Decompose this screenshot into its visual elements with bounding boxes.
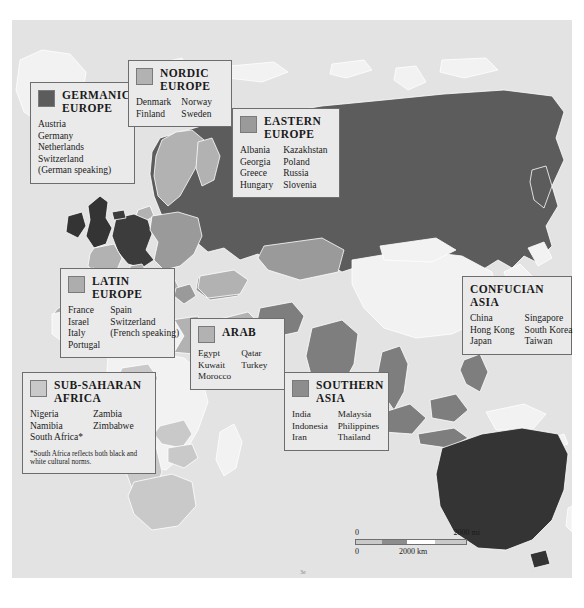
country-item: Spain	[110, 305, 179, 317]
country-item: France	[68, 305, 100, 317]
country-item: Morocco	[198, 371, 231, 383]
legend-country-columns: Nigeria Namibia South Africa* Zambia Zim…	[30, 409, 148, 444]
arctic-islands-c	[440, 58, 498, 78]
legend-column: Kazakhstan Poland Russia Slovenia	[283, 145, 327, 191]
country-item: Iran	[292, 432, 328, 444]
country-item: Albania	[240, 145, 273, 157]
country-item: Germany	[38, 131, 111, 143]
country-item: Namibia	[30, 421, 83, 433]
country-item: South Africa*	[30, 432, 83, 444]
country-item: Qatar	[241, 348, 267, 360]
country-item: Norway	[181, 97, 212, 109]
legend-country-columns: France Israel Italy Portugal Spain Switz…	[68, 305, 167, 351]
legend-header: GERMANIC EUROPE	[38, 88, 127, 114]
legend-box-eastern-europe[interactable]: EASTERN EUROPE Albania Georgia Greece Hu…	[232, 108, 340, 198]
legend-column: India Indonesia Iran	[292, 409, 328, 444]
legend-country-columns: Austria Germany Netherlands Switzerland …	[38, 119, 127, 177]
country-item: Sweden	[181, 109, 212, 121]
philippines	[460, 354, 488, 392]
country-item: Zimbabwe	[93, 421, 134, 433]
country-item: Japan	[470, 336, 515, 348]
country-item: Denmark	[136, 97, 171, 109]
legend-title: SOUTHERN ASIA	[316, 378, 384, 404]
color-swatch-icon	[198, 326, 215, 343]
country-item: Turkey	[241, 360, 267, 372]
legend-title: LATIN EUROPE	[92, 274, 142, 300]
country-item: Netherlands	[38, 142, 111, 154]
country-item: Greece	[240, 168, 273, 180]
indonesia-borneo	[430, 394, 468, 422]
legend-column: France Israel Italy Portugal	[68, 305, 100, 351]
legend-column: Egypt Kuwait Morocco	[198, 348, 231, 383]
country-item: China	[470, 313, 515, 325]
legend-header: SOUTHERN ASIA	[292, 378, 381, 404]
country-item: Philippines	[338, 421, 379, 433]
arctic-islands-a	[228, 62, 288, 82]
ireland	[66, 212, 86, 238]
legend-box-arab[interactable]: ARAB Egypt Kuwait Morocco Qatar Turkey	[190, 318, 285, 390]
map-attribution-mark: 3e	[300, 569, 306, 575]
country-item: Nigeria	[30, 409, 83, 421]
color-swatch-icon	[68, 276, 85, 293]
scale-segment	[407, 540, 436, 544]
legend-column: Nigeria Namibia South Africa*	[30, 409, 83, 444]
legend-header: SUB-SAHARAN AFRICA	[30, 378, 148, 404]
country-item: Switzerland	[110, 317, 179, 329]
legend-column: China Hong Kong Japan	[470, 313, 515, 348]
country-item: Poland	[283, 157, 327, 169]
country-item: Kazakhstan	[283, 145, 327, 157]
legend-title: CONFUCIAN ASIA	[470, 282, 544, 308]
legend-box-nordic-europe[interactable]: NORDIC EUROPE Denmark Finland Norway Swe…	[128, 60, 232, 127]
country-item: Switzerland	[38, 154, 111, 166]
legend-column: Malaysia Philippines Thailand	[338, 409, 379, 444]
country-item: Thailand	[338, 432, 379, 444]
legend-title: EASTERN EUROPE	[264, 114, 321, 140]
legend-column: Zambia Zimbabwe	[93, 409, 134, 444]
color-swatch-icon	[240, 116, 257, 133]
country-item: Zambia	[93, 409, 134, 421]
country-item: Italy	[68, 328, 100, 340]
new-zealand	[566, 506, 572, 532]
scale-bar: 0 2000 mi 0 2000 km	[355, 528, 480, 558]
scale-segment	[382, 540, 406, 544]
south-africa	[128, 474, 196, 530]
legend-column: Denmark Finland	[136, 97, 171, 120]
arctic-islands-b	[330, 60, 372, 78]
legend-column: Spain Switzerland (French speaking)	[110, 305, 179, 351]
legend-box-latin-europe[interactable]: LATIN EUROPE France Israel Italy Portuga…	[60, 268, 175, 358]
legend-header: EASTERN EUROPE	[240, 114, 332, 140]
tasmania	[530, 550, 550, 568]
legend-title: ARAB	[222, 324, 256, 340]
scale-miles-zero: 0	[355, 528, 359, 537]
country-item: Kuwait	[198, 360, 231, 372]
legend-country-columns: Egypt Kuwait Morocco Qatar Turkey	[198, 348, 277, 383]
netherlands	[112, 210, 126, 220]
madagascar	[216, 424, 242, 476]
country-item: Egypt	[198, 348, 231, 360]
legend-column: Singapore South Korea Taiwan	[525, 313, 573, 348]
country-item: (German speaking)	[38, 165, 111, 177]
scale-km-zero: 0	[355, 547, 359, 556]
legend-header: LATIN EUROPE	[68, 274, 167, 300]
scale-miles-max: 2000 mi	[454, 528, 480, 537]
country-item: Austria	[38, 119, 111, 131]
legend-title: SUB-SAHARAN AFRICA	[54, 378, 141, 404]
color-swatch-icon	[136, 68, 153, 85]
legend-box-sub-saharan-africa[interactable]: SUB-SAHARAN AFRICA Nigeria Namibia South…	[22, 372, 156, 474]
country-item: Singapore	[525, 313, 573, 325]
color-swatch-icon	[38, 90, 55, 107]
legend-box-confucian-asia[interactable]: CONFUCIAN ASIA China Hong Kong Japan Sin…	[462, 276, 572, 355]
country-item: Taiwan	[525, 336, 573, 348]
legend-header: NORDIC EUROPE	[136, 66, 224, 92]
legend-country-columns: India Indonesia Iran Malaysia Philippine…	[292, 409, 381, 444]
legend-footnote: *South Africa reflects both black and wh…	[30, 450, 148, 467]
country-item: Indonesia	[292, 421, 328, 433]
legend-box-southern-asia[interactable]: SOUTHERN ASIA India Indonesia Iran Malay…	[284, 372, 389, 451]
scale-segment	[356, 540, 382, 544]
legend-box-germanic-europe[interactable]: GERMANIC EUROPE Austria Germany Netherla…	[30, 82, 135, 184]
country-item: Hungary	[240, 180, 273, 192]
legend-country-columns: China Hong Kong Japan Singapore South Ko…	[470, 313, 564, 348]
country-item: India	[292, 409, 328, 421]
legend-header: CONFUCIAN ASIA	[470, 282, 564, 308]
country-item: Finland	[136, 109, 171, 121]
